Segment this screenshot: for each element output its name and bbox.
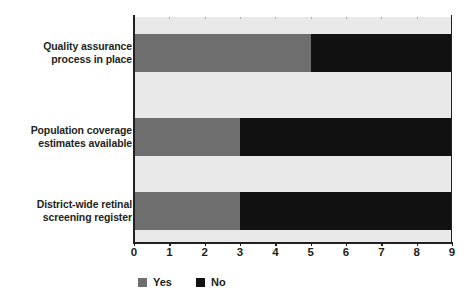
x-tick-mark-8 [417,242,418,246]
legend-label-yes: Yes [153,276,172,288]
legend-label-no: No [211,276,226,288]
x-tick-mark-5 [311,242,312,246]
x-tick-label-4: 4 [263,246,287,258]
x-tick-mark-4 [275,242,276,246]
x-tick-mark-1 [169,242,170,246]
horizontal-stacked-bar-chart: Quality assurance process in place Popul… [0,0,476,300]
x-tick-mark-3 [240,242,241,246]
category-axis-labels: Quality assurance process in place Popul… [0,0,132,242]
x-tick-mark-7 [381,242,382,246]
x-tick-label-7: 7 [369,246,393,258]
bar-row [134,34,452,72]
category-label-quality-assurance: Quality assurance process in place [4,40,132,65]
x-tick-label-0: 0 [122,246,146,258]
x-tick-mark-0 [134,242,135,246]
bar-segment-yes [134,118,240,156]
legend-swatch-yes-icon [138,278,147,287]
bar-segment-no [311,34,452,72]
x-tick-label-6: 6 [334,246,358,258]
bar-segment-yes [134,192,240,230]
chart-legend: Yes No [138,276,226,288]
plot-area [134,17,452,242]
legend-item-yes: Yes [138,276,172,288]
category-label-line1: Quality assurance [43,40,132,52]
x-tick-label-2: 2 [193,246,217,258]
x-tick-label-5: 5 [299,246,323,258]
x-axis-line [133,242,453,244]
x-tick-mark-9 [452,242,453,246]
category-label-line1: District-wide retinal [37,198,132,210]
category-label-line1: Population coverage [31,124,132,136]
bar-row [134,192,452,230]
x-tick-label-3: 3 [228,246,252,258]
category-label-retinal-screening-register: District-wide retinal screening register [4,198,132,223]
bar-segment-no [240,192,452,230]
x-tick-mark-2 [205,242,206,246]
bar-segment-no [240,118,452,156]
x-tick-label-9: 9 [440,246,464,258]
category-label-line2: process in place [51,53,132,65]
category-label-population-coverage: Population coverage estimates available [4,124,132,149]
bar-segment-yes [134,34,311,72]
y-axis-line [133,15,135,244]
category-label-line2: estimates available [38,137,132,149]
bar-row [134,118,452,156]
x-tick-label-8: 8 [405,246,429,258]
category-label-line2: screening register [43,211,132,223]
legend-swatch-no-icon [196,278,205,287]
x-tick-label-1: 1 [157,246,181,258]
x-tick-mark-6 [346,242,347,246]
legend-item-no: No [196,276,226,288]
plot-right-border [451,15,452,244]
